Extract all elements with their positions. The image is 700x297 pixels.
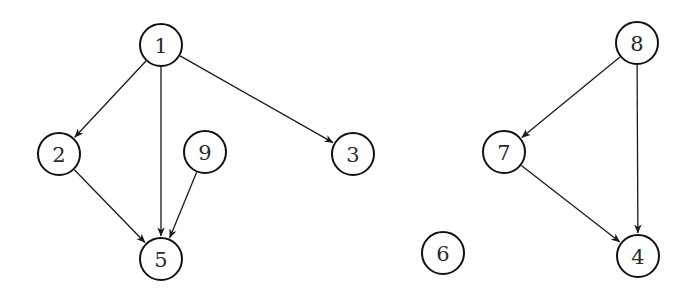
node-3: 3 (332, 133, 374, 175)
graph-canvas: 123456789 (0, 0, 700, 297)
edge-8-to-4 (637, 65, 638, 233)
node-label: 7 (497, 141, 510, 165)
node-5: 5 (140, 238, 182, 280)
node-8: 8 (616, 22, 658, 64)
node-label: 1 (154, 34, 167, 58)
node-label: 3 (346, 143, 359, 167)
nodes-layer: 123456789 (38, 22, 659, 280)
node-2: 2 (38, 133, 80, 175)
edge-8-to-7 (522, 57, 620, 137)
node-9: 9 (184, 131, 226, 173)
edge-2-to-5 (74, 170, 145, 243)
node-label: 9 (198, 141, 211, 165)
node-label: 2 (52, 143, 65, 167)
node-1: 1 (140, 24, 182, 66)
node-label: 8 (630, 32, 643, 56)
edge-1-to-3 (180, 56, 333, 143)
edge-7-to-4 (521, 165, 619, 241)
node-4: 4 (617, 235, 659, 277)
edge-1-to-2 (75, 61, 146, 137)
node-7: 7 (483, 131, 525, 173)
node-label: 5 (154, 248, 167, 272)
node-label: 6 (436, 242, 449, 266)
node-label: 4 (631, 245, 644, 269)
edge-9-to-5 (170, 172, 197, 237)
directed-graph: 123456789 (0, 0, 700, 297)
node-6: 6 (422, 232, 464, 274)
